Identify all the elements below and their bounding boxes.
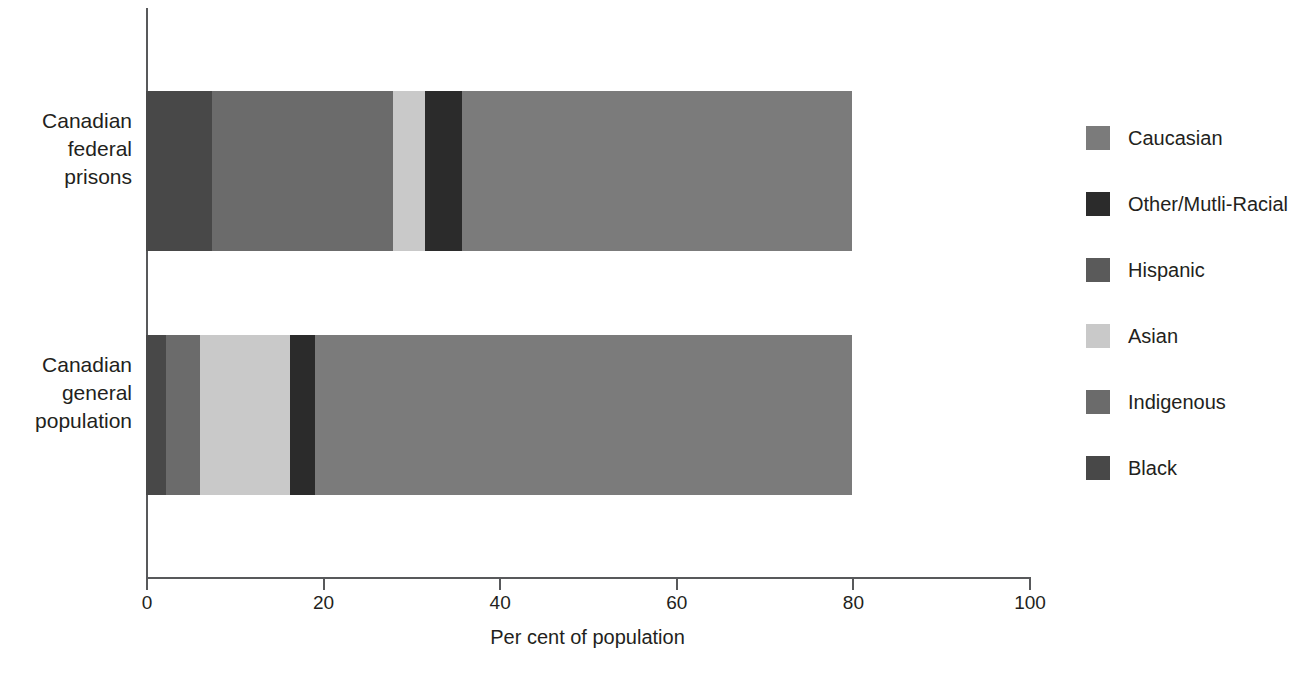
legend-label: Black [1128,456,1177,480]
stacked-bar-canadian-general-population [146,335,852,495]
chart-legend: CaucasianOther/Mutli-RacialHispanicAsian… [1086,105,1301,501]
legend-item-indigenous[interactable]: Indigenous [1086,369,1301,435]
legend-item-other-mutli-racial[interactable]: Other/Mutli-Racial [1086,171,1301,237]
x-tick-label-60: 60 [666,591,687,615]
x-tick-100 [1029,579,1031,590]
x-axis-title: Per cent of population [146,626,1029,649]
legend-label: Asian [1128,324,1178,348]
x-tick-label-0: 0 [142,591,153,615]
stacked-bar-canadian-federal-prisons [146,91,852,251]
legend-item-caucasian[interactable]: Caucasian [1086,105,1301,171]
x-tick-label-20: 20 [313,591,334,615]
legend-item-black[interactable]: Black [1086,435,1301,501]
legend-label: Hispanic [1128,258,1205,282]
bar-segment-black [146,91,212,251]
bar-segment-indigenous [166,335,200,495]
legend-swatch-icon [1086,456,1110,480]
legend-swatch-icon [1086,126,1110,150]
x-tick-40 [499,579,501,590]
chart-root: Canadian federal prisons Canadian genera… [0,0,1305,676]
x-tick-0 [146,579,148,590]
x-tick-20 [323,579,325,590]
bar-segment-black [146,335,166,495]
category-label-canadian-federal-prisons: Canadian federal prisons [0,107,132,191]
legend-label: Other/Mutli-Racial [1128,192,1288,216]
bar-segment-asian [393,91,425,251]
bar-segment-asian [200,335,290,495]
bar-segment-indigenous [212,91,393,251]
legend-swatch-icon [1086,192,1110,216]
x-tick-label-80: 80 [843,591,864,615]
legend-swatch-icon [1086,324,1110,348]
x-tick-label-40: 40 [490,591,511,615]
legend-item-asian[interactable]: Asian [1086,303,1301,369]
x-tick-80 [852,579,854,590]
bar-segment-other-mutli-racial [290,335,315,495]
x-axis-line [146,577,1031,579]
bar-segment-other-mutli-racial [425,91,462,251]
bar-segment-caucasian [315,335,853,495]
legend-label: Indigenous [1128,390,1226,414]
legend-swatch-icon [1086,258,1110,282]
x-tick-60 [676,579,678,590]
legend-item-hispanic[interactable]: Hispanic [1086,237,1301,303]
legend-label: Caucasian [1128,126,1223,150]
x-tick-label-100: 100 [1014,591,1046,615]
category-label-canadian-general-population: Canadian general population [0,351,132,435]
bar-segment-caucasian [462,91,852,251]
legend-swatch-icon [1086,390,1110,414]
